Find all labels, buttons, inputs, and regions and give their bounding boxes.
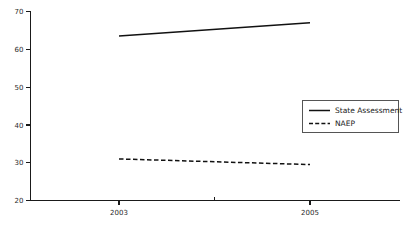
y-tick-label-50: 50 bbox=[15, 84, 24, 92]
x-tick-label-2003: 2003 bbox=[110, 209, 128, 217]
series-line-naep bbox=[119, 159, 310, 165]
y-tick-label-20: 20 bbox=[15, 197, 24, 205]
line-chart: 70 60 50 40 30 20 2003 2005 bbox=[0, 0, 413, 230]
chart-canvas: 70 60 50 40 30 20 2003 2005 bbox=[0, 0, 413, 230]
legend-label-naep: NAEP bbox=[335, 119, 355, 128]
y-tick-label-30: 30 bbox=[15, 159, 24, 167]
series-group bbox=[119, 23, 310, 165]
x-axis-ticks: 2003 2005 bbox=[110, 197, 319, 218]
legend-label-state-assessment: State Assessment bbox=[335, 106, 402, 115]
legend: State Assessment NAEP bbox=[303, 101, 403, 133]
x-tick-label-2005: 2005 bbox=[301, 209, 319, 217]
y-tick-label-60: 60 bbox=[15, 46, 24, 54]
y-tick-label-70: 70 bbox=[15, 8, 24, 16]
y-tick-label-40: 40 bbox=[15, 122, 24, 130]
series-line-state-assessment bbox=[119, 23, 310, 36]
y-axis-ticks: 70 60 50 40 30 20 bbox=[15, 8, 31, 205]
